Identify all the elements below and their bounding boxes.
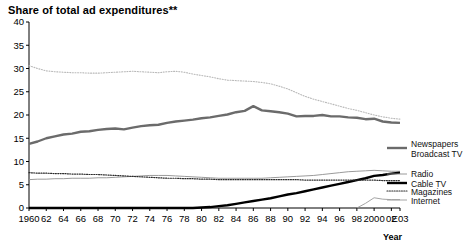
x-tick-label: 80 bbox=[196, 213, 207, 224]
x-tick-label: 94 bbox=[317, 213, 328, 224]
x-tick-label: 98 bbox=[352, 213, 363, 224]
y-tick-label: 30 bbox=[13, 63, 24, 74]
series-line-radio bbox=[29, 170, 400, 179]
y-tick-label: 15 bbox=[13, 133, 24, 144]
x-tick-label: E03 bbox=[392, 213, 409, 224]
y-tick-label: 0 bbox=[19, 202, 24, 213]
x-axis-title: Year bbox=[383, 232, 402, 242]
x-tick-label: 82 bbox=[214, 213, 225, 224]
series-line-broadcast-tv bbox=[29, 106, 400, 144]
y-tick-label: 5 bbox=[19, 179, 24, 190]
x-tick-label: 76 bbox=[162, 213, 173, 224]
x-tick-label: 78 bbox=[179, 213, 190, 224]
series-line-magazines bbox=[29, 173, 400, 181]
x-tick-label: 74 bbox=[145, 213, 156, 224]
x-tick-label: 1960 bbox=[18, 213, 39, 224]
chart-plot-area: 0510152025303540196062646668707274767880… bbox=[0, 0, 468, 248]
y-tick-label: 20 bbox=[13, 109, 24, 120]
y-tick-label: 10 bbox=[13, 156, 24, 167]
x-tick-label: 68 bbox=[93, 213, 104, 224]
x-tick-label: 88 bbox=[265, 213, 276, 224]
x-tick-label: 96 bbox=[334, 213, 345, 224]
x-tick-label: 72 bbox=[127, 213, 138, 224]
x-tick-label: 92 bbox=[300, 213, 311, 224]
y-tick-label: 40 bbox=[13, 16, 24, 27]
x-tick-label: 2000 bbox=[364, 213, 385, 224]
x-tick-label: 70 bbox=[110, 213, 121, 224]
x-tick-label: 84 bbox=[231, 213, 242, 224]
y-tick-label: 25 bbox=[13, 86, 24, 97]
series-line-newspapers bbox=[29, 66, 400, 119]
x-tick-label: 64 bbox=[58, 213, 69, 224]
series-line-internet bbox=[357, 198, 400, 208]
x-tick-label: 62 bbox=[41, 213, 52, 224]
x-tick-label: 86 bbox=[248, 213, 259, 224]
y-tick-label: 35 bbox=[13, 40, 24, 51]
x-tick-label: 90 bbox=[283, 213, 294, 224]
series-label-internet: Internet bbox=[411, 197, 440, 207]
series-label-broadcast-tv: Broadcast TV bbox=[411, 150, 462, 160]
ad-expenditure-share-chart: Share of total ad expenditures** 0510152… bbox=[0, 0, 468, 248]
x-tick-label: 66 bbox=[75, 213, 86, 224]
